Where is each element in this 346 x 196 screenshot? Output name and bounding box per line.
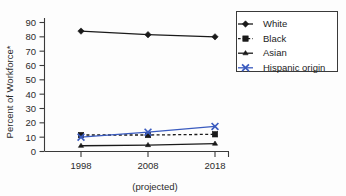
y-tick-label: 50 (25, 74, 36, 85)
chart-figure: Percent of Workforce* 010203040506070809… (0, 0, 346, 196)
line-chart-canvas: Percent of Workforce* 010203040506070809… (0, 0, 346, 196)
series-white (78, 28, 218, 40)
x-axis-caption: (projected) (132, 181, 177, 192)
x-tick-label: 2018 (204, 160, 225, 171)
y-tick-label: 60 (25, 60, 36, 71)
y-tick-label: 80 (25, 31, 36, 42)
series-layer (78, 28, 219, 147)
x-tick-label: 1998 (70, 160, 91, 171)
y-tick-label: 20 (25, 117, 36, 128)
data-point-marker (78, 28, 84, 34)
legend-label: Black (263, 33, 286, 44)
y-tick-label: 30 (25, 103, 36, 114)
data-point-marker (212, 34, 218, 40)
series-asian (78, 141, 217, 147)
y-axis-title: Percent of Workforce* (4, 45, 15, 138)
y-tick-label: 10 (25, 132, 36, 143)
legend-label: Hispanic origin (263, 62, 325, 73)
data-point-marker (145, 31, 151, 37)
y-axis-ticks: 0102030405060708090 (25, 17, 44, 157)
y-tick-label: 40 (25, 89, 36, 100)
legend-label: White (263, 18, 287, 29)
y-tick-label: 70 (25, 46, 36, 57)
x-tick-label: 2008 (137, 160, 158, 171)
y-tick-label: 0 (31, 146, 36, 157)
y-tick-label: 90 (25, 17, 36, 28)
legend-label: Asian (263, 47, 287, 58)
data-point-marker (243, 36, 248, 41)
data-point-marker (212, 132, 217, 137)
x-axis-ticks: 199820082018 (70, 152, 228, 172)
